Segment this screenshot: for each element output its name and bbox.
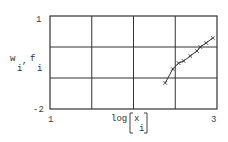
x-marker-icon xyxy=(211,36,215,40)
y-tick-bottom: -2 xyxy=(33,105,44,115)
x-marker-icon xyxy=(163,81,167,85)
x-tick-right: 3 xyxy=(211,115,216,125)
chart: 1 -2 1 3 w i , f i log x i xyxy=(0,0,228,142)
x-marker-icon xyxy=(182,59,186,63)
x-axis-label: log x i xyxy=(111,113,147,134)
x-marker-icon xyxy=(195,49,199,53)
svg-text:i: i xyxy=(37,64,42,74)
x-tick-left: 1 xyxy=(48,115,53,125)
svg-text:x: x xyxy=(134,114,139,124)
x-marker-icon xyxy=(204,41,208,45)
svg-text:i: i xyxy=(139,124,144,134)
series-line xyxy=(165,38,213,83)
x-marker-icon xyxy=(188,54,192,58)
svg-text:,: , xyxy=(22,56,27,66)
x-marker-icon xyxy=(171,67,175,71)
svg-text:log: log xyxy=(111,114,127,124)
data-series xyxy=(163,36,214,85)
svg-text:w: w xyxy=(10,54,16,64)
x-marker-icon xyxy=(177,61,181,65)
y-axis-label: w i , f i xyxy=(10,54,42,74)
grid-lines xyxy=(50,16,217,109)
svg-text:f: f xyxy=(30,54,35,64)
y-tick-top: 1 xyxy=(36,15,41,25)
